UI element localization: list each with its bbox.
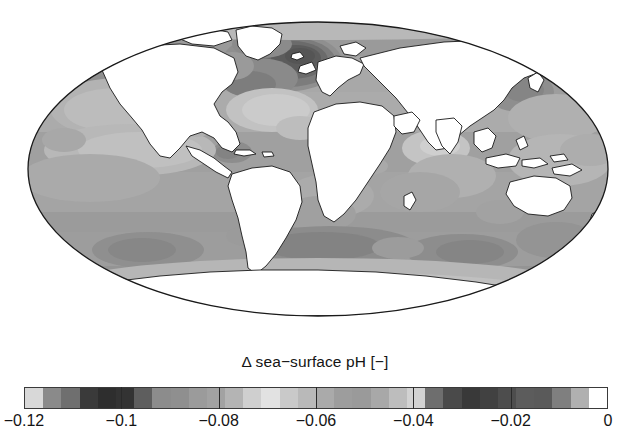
- colorbar-segment: [407, 388, 425, 408]
- colorbar-title: Δ sea−surface pH [−]: [0, 353, 630, 371]
- colorbar-segment: [316, 388, 334, 408]
- colorbar-tick-label: −0.06: [296, 412, 336, 430]
- colorbar-segment: [225, 388, 243, 408]
- colorbar-tick-label: −0.02: [490, 412, 530, 430]
- colorbar-segment: [534, 388, 552, 408]
- colorbar-segment: [443, 388, 461, 408]
- colorbar-segment: [261, 388, 279, 408]
- colorbar-segment: [462, 388, 480, 408]
- colorbar-segment: [243, 388, 261, 408]
- colorbar-segment: [334, 388, 352, 408]
- colorbar-segment: [280, 388, 298, 408]
- colorbar-segment: [25, 388, 43, 408]
- colorbar-segment: [152, 388, 170, 408]
- colorbar-tick-label: 0: [604, 412, 613, 430]
- colorbar-segment: [516, 388, 534, 408]
- colorbar-segment: [571, 388, 589, 408]
- colorbar-segment: [425, 388, 443, 408]
- colorbar-segment: [43, 388, 61, 408]
- colorbar-segment: [189, 388, 207, 408]
- colorbar-segment: [498, 388, 516, 408]
- colorbar-segment: [480, 388, 498, 408]
- colorbar-segment: [98, 388, 116, 408]
- colorbar-segment: [589, 388, 607, 408]
- colorbar-segment: [134, 388, 152, 408]
- colorbar-segment: [389, 388, 407, 408]
- mollweide-map: [0, 0, 630, 330]
- colorbar-segment: [552, 388, 570, 408]
- colorbar-segment: [80, 388, 98, 408]
- colorbar-tick-labels: −0.12−0.1−0.08−0.06−0.04−0.020: [0, 412, 630, 436]
- colorbar-segment: [61, 388, 79, 408]
- colorbar-segment: [352, 388, 370, 408]
- colorbar-segment: [298, 388, 316, 408]
- colorbar-segment: [207, 388, 225, 408]
- colorbar-tick-label: −0.1: [106, 412, 138, 430]
- colorbar-segment: [171, 388, 189, 408]
- colorbar-gradient: [24, 387, 608, 409]
- colorbar-segment: [371, 388, 389, 408]
- world-map-figure: [0, 0, 630, 330]
- colorbar-segment: [116, 388, 134, 408]
- colorbar-tick-label: −0.08: [198, 412, 238, 430]
- colorbar-tick-label: −0.12: [4, 412, 44, 430]
- colorbar-block: Δ sea−surface pH [−] −0.12−0.1−0.08−0.06…: [0, 330, 630, 439]
- colorbar-tick-label: −0.04: [393, 412, 433, 430]
